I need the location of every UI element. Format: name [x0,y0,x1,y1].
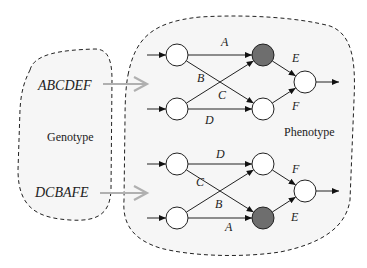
network-node [166,44,188,66]
edge-label-c: C [218,88,227,102]
edge-label-e: E [291,51,300,65]
edge-label-a: A [220,35,229,49]
edge-label-d: D [204,113,214,127]
genotype-sequence-1: ABCDEF [37,78,92,93]
edge-label-f: F [291,162,300,176]
network-node [294,180,316,202]
network-node [252,98,274,120]
edge-label-b: B [197,71,205,85]
network-node [166,153,188,175]
phenotype-label: Phenotype [284,125,335,139]
highlighted-node [252,207,274,229]
genotype-label: Genotype [47,130,94,144]
network-node [252,153,274,175]
edge-label-f: F [291,99,300,113]
edge-label-e: E [290,210,299,224]
edge-label-c: C [196,175,205,189]
network-node [166,98,188,120]
edge-label-a: A [224,220,233,234]
edge-label-d: D [215,147,225,161]
highlighted-node [252,44,274,66]
genotype-sequence-2: DCBAFE [34,185,89,200]
genotype-phenotype-diagram: ABCDEF Genotype DCBAFE Phenotype ABCDEFD… [0,0,367,268]
network-node [294,71,316,93]
edge-label-b: B [215,197,223,211]
network-node [166,207,188,229]
